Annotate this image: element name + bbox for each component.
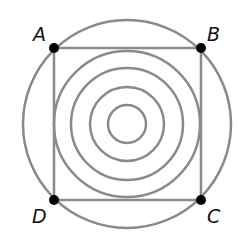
label-d: D — [32, 205, 47, 227]
point-c — [196, 195, 206, 205]
concentric-circle-3 — [71, 68, 183, 180]
inscribed-circle — [54, 51, 200, 197]
point-b — [196, 43, 206, 53]
point-d — [49, 195, 59, 205]
label-a: A — [31, 23, 46, 45]
concentric-circle-1 — [108, 105, 146, 143]
point-a — [49, 43, 59, 53]
label-b: B — [207, 23, 220, 45]
geometry-diagram: A B C D — [0, 0, 239, 239]
concentric-circle-2 — [90, 87, 164, 161]
label-c: C — [207, 205, 221, 227]
